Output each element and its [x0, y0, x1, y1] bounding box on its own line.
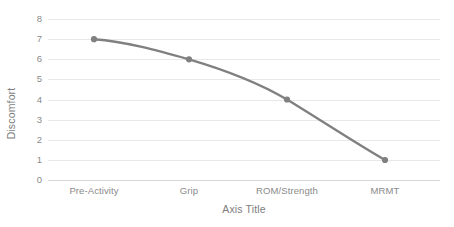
gridline — [48, 19, 440, 20]
gridline — [48, 39, 440, 40]
y-axis-title: Discomfort — [0, 0, 22, 227]
y-tick-label: 4 — [22, 95, 42, 105]
y-tick-label: 7 — [22, 34, 42, 44]
gridline — [48, 160, 440, 161]
y-axis-tick-labels: 8 7 6 5 4 3 2 1 0 — [22, 19, 42, 180]
gridline — [48, 120, 440, 121]
y-tick-label: 6 — [22, 54, 42, 64]
x-axis-tick-labels: Pre-Activity Grip ROM/Strength MRMT — [48, 185, 440, 199]
y-tick-label: 5 — [22, 74, 42, 84]
y-tick-label: 1 — [22, 155, 42, 165]
plot-area — [48, 19, 440, 180]
x-tick-label: MRMT — [371, 185, 400, 196]
x-axis-line — [48, 180, 440, 181]
x-tick-label: ROM/Strength — [256, 185, 318, 196]
y-tick-label: 0 — [22, 175, 42, 185]
gridline — [48, 100, 440, 101]
gridline — [48, 140, 440, 141]
y-tick-label: 2 — [22, 135, 42, 145]
x-tick-label: Grip — [180, 185, 198, 196]
y-tick-label: 3 — [22, 115, 42, 125]
gridline — [48, 59, 440, 60]
line-chart: Discomfort 8 7 6 5 4 3 2 1 0 Pre-Activit… — [0, 0, 454, 227]
y-tick-label: 8 — [22, 14, 42, 24]
x-axis-title: Axis Title — [48, 203, 440, 215]
gridline — [48, 79, 440, 80]
x-tick-label: Pre-Activity — [69, 185, 118, 196]
